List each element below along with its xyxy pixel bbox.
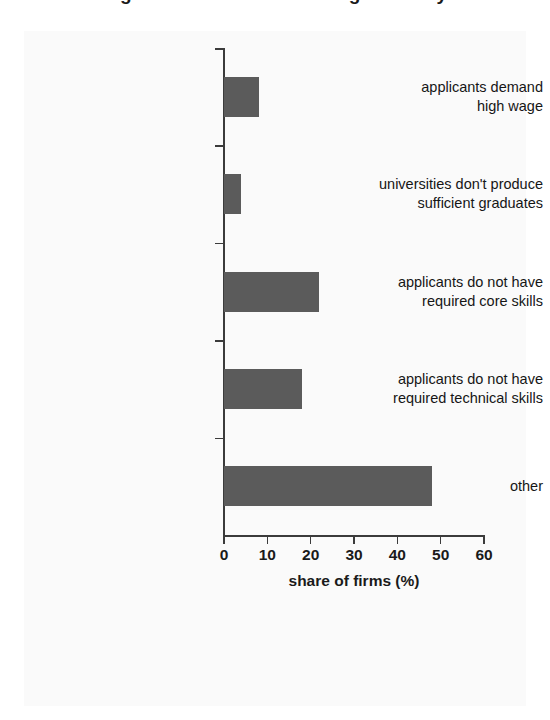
x-tick-label: 50 bbox=[421, 546, 461, 564]
x-tick-mark bbox=[223, 536, 225, 544]
category-label: applicants do not haverequired core skil… bbox=[335, 273, 550, 311]
category-label-line: applicants do not have bbox=[335, 273, 543, 292]
bar bbox=[224, 174, 241, 214]
x-tick-mark bbox=[310, 536, 312, 544]
category-label: universities don't producesufficient gra… bbox=[335, 175, 550, 213]
category-label-line: required technical skills bbox=[335, 389, 543, 408]
category-label: applicants do not haverequired technical… bbox=[335, 370, 550, 408]
x-tick-mark bbox=[483, 536, 485, 544]
x-tick-mark bbox=[267, 536, 269, 544]
category-label: other bbox=[335, 477, 550, 496]
category-label-line: sufficient graduates bbox=[335, 194, 543, 213]
category-label-line: required core skills bbox=[335, 292, 543, 311]
y-tick-mark bbox=[215, 438, 224, 440]
x-tick-label: 60 bbox=[464, 546, 504, 564]
bar bbox=[224, 272, 319, 312]
bar bbox=[224, 369, 302, 409]
x-tick-label: 40 bbox=[377, 546, 417, 564]
x-tick-label: 0 bbox=[204, 546, 244, 564]
y-tick-mark bbox=[215, 243, 224, 245]
category-label-line: applicants demand bbox=[335, 78, 543, 97]
horizontal-bar-chart: 0102030405060 applicants demandhigh wage… bbox=[0, 0, 550, 720]
category-label: applicants demandhigh wage bbox=[335, 78, 550, 116]
x-tick-mark bbox=[397, 536, 399, 544]
y-tick-mark bbox=[215, 145, 224, 147]
x-tick-mark bbox=[440, 536, 442, 544]
category-label-line: universities don't produce bbox=[335, 175, 543, 194]
x-axis-title: share of firms (%) bbox=[223, 572, 485, 590]
category-label-line: other bbox=[335, 477, 543, 496]
y-tick-mark bbox=[215, 340, 224, 342]
figure-page: Figure 4. Reasons for hiring difficulty … bbox=[0, 0, 550, 720]
x-tick-mark bbox=[353, 536, 355, 544]
category-label-line: applicants do not have bbox=[335, 370, 543, 389]
x-tick-label: 30 bbox=[334, 546, 374, 564]
y-tick-mark bbox=[215, 48, 224, 50]
bar bbox=[224, 77, 259, 117]
x-tick-label: 20 bbox=[291, 546, 331, 564]
x-tick-label: 10 bbox=[247, 546, 287, 564]
category-label-line: high wage bbox=[335, 97, 543, 116]
